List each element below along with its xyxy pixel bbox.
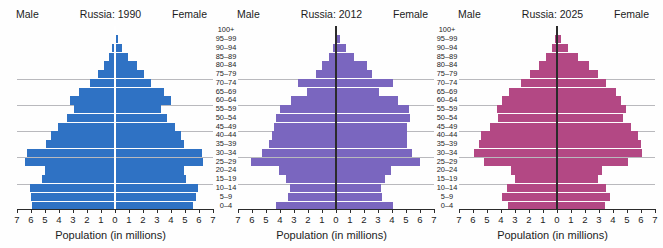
x-tick-label: 6 bbox=[249, 214, 254, 225]
x-axis-tick bbox=[171, 209, 172, 213]
bar-male-35–39 bbox=[479, 140, 557, 148]
pyramid-panel-1990: Male Russia: 1990 Female 765432101234567… bbox=[0, 0, 221, 248]
x-tick-label: 0 bbox=[112, 214, 117, 225]
x-axis-tick bbox=[392, 209, 393, 213]
age-group-labels-left: 100+95–9990–9485–8980–8475–7970–7465–696… bbox=[209, 26, 243, 210]
bar-female-30–34 bbox=[115, 149, 202, 157]
x-axis-tick bbox=[308, 209, 309, 213]
bar-male-20–24 bbox=[511, 166, 557, 174]
bar-male-30–34 bbox=[27, 149, 115, 157]
bar-female-80–84 bbox=[557, 61, 589, 69]
bar-male-25–29 bbox=[251, 158, 336, 166]
x-tick-label: 3 bbox=[291, 214, 296, 225]
age-group-label: 95–99 bbox=[209, 35, 243, 43]
x-axis-tick bbox=[613, 209, 614, 213]
x-tick-label: 1 bbox=[319, 214, 324, 225]
bar-male-15–19 bbox=[42, 175, 115, 183]
x-tick-label: 2 bbox=[305, 214, 310, 225]
x-axis-tick bbox=[31, 209, 32, 213]
bar-female-60–64 bbox=[115, 96, 171, 104]
x-axis-title: Population (in millions) bbox=[442, 228, 663, 242]
x-tick-label: 5 bbox=[263, 214, 268, 225]
x-axis-tick bbox=[350, 209, 351, 213]
bar-female-60–64 bbox=[336, 96, 398, 104]
bar-male-50–54 bbox=[67, 114, 115, 122]
bar-female-75–79 bbox=[115, 70, 144, 78]
x-axis-tick bbox=[322, 209, 323, 213]
x-axis-tick bbox=[501, 209, 502, 213]
age-group-label: 70–74 bbox=[209, 79, 243, 87]
x-axis-tick bbox=[17, 209, 18, 213]
bar-female-45–49 bbox=[557, 123, 631, 131]
age-group-label: 5–9 bbox=[430, 193, 464, 201]
bar-male-60–64 bbox=[502, 96, 557, 104]
x-tick-label: 0 bbox=[554, 214, 559, 225]
x-tick-label: 7 bbox=[431, 214, 436, 225]
zero-axis-line bbox=[556, 26, 558, 210]
bar-male-55–59 bbox=[280, 105, 336, 113]
bar-female-65–69 bbox=[557, 88, 616, 96]
bar-female-5–9 bbox=[336, 193, 382, 201]
x-tick-label: 2 bbox=[582, 214, 587, 225]
x-axis-title: Population (in millions) bbox=[0, 228, 221, 242]
x-axis-tick bbox=[129, 209, 130, 213]
bar-female-30–34 bbox=[336, 149, 412, 157]
bar-female-40–44 bbox=[336, 131, 407, 139]
age-group-label: 70–74 bbox=[430, 79, 464, 87]
x-tick-label: 4 bbox=[610, 214, 615, 225]
bar-female-10–14 bbox=[115, 184, 198, 192]
bar-female-45–49 bbox=[336, 123, 407, 131]
bar-female-40–44 bbox=[115, 131, 181, 139]
x-tick-label: 1 bbox=[126, 214, 131, 225]
female-label: Female bbox=[172, 7, 207, 21]
female-label: Female bbox=[393, 7, 428, 21]
bar-male-50–54 bbox=[276, 114, 336, 122]
bar-female-60–64 bbox=[557, 96, 621, 104]
bar-female-15–19 bbox=[557, 175, 598, 183]
age-group-label: 50–54 bbox=[209, 114, 243, 122]
bar-male-80–84 bbox=[322, 61, 336, 69]
x-axis-title: Population (in millions) bbox=[221, 228, 442, 242]
bar-male-15–19 bbox=[286, 175, 336, 183]
x-tick-label: 7 bbox=[652, 214, 657, 225]
x-axis-tick bbox=[406, 209, 407, 213]
x-tick-label: 1 bbox=[98, 214, 103, 225]
bar-male-40–44 bbox=[272, 131, 336, 139]
x-tick-label: 7 bbox=[235, 214, 240, 225]
bar-male-60–64 bbox=[70, 96, 115, 104]
bar-female-20–24 bbox=[336, 166, 391, 174]
bar-female-80–84 bbox=[115, 61, 137, 69]
x-tick-label: 3 bbox=[154, 214, 159, 225]
bar-male-65–69 bbox=[79, 88, 115, 96]
x-axis-tick bbox=[571, 209, 572, 213]
bar-female-5–9 bbox=[115, 193, 196, 201]
bar-male-25–29 bbox=[25, 158, 115, 166]
x-axis-tick bbox=[378, 209, 379, 213]
x-axis-tick-labels: 765432101234567 bbox=[221, 214, 442, 226]
bar-male-60–64 bbox=[291, 96, 336, 104]
age-group-labels-right: 100+95–9990–9485–8980–8475–7970–7465–696… bbox=[430, 26, 464, 210]
x-axis-tick bbox=[543, 209, 544, 213]
bar-male-75–79 bbox=[316, 70, 336, 78]
bar-female-35–39 bbox=[336, 140, 407, 148]
x-tick-label: 4 bbox=[168, 214, 173, 225]
bar-female-85–89 bbox=[115, 53, 128, 61]
x-axis-tick bbox=[487, 209, 488, 213]
bar-female-25–29 bbox=[557, 158, 628, 166]
age-group-label: 10–14 bbox=[430, 184, 464, 192]
bar-female-25–29 bbox=[115, 158, 203, 166]
age-group-label: 30–34 bbox=[430, 149, 464, 157]
female-label: Female bbox=[614, 7, 649, 21]
bar-female-70–74 bbox=[557, 79, 606, 87]
x-axis-tick bbox=[473, 209, 474, 213]
x-axis-tick bbox=[143, 209, 144, 213]
bar-female-35–39 bbox=[557, 140, 641, 148]
x-tick-label: 6 bbox=[417, 214, 422, 225]
bar-male-30–34 bbox=[474, 149, 557, 157]
bar-female-85–89 bbox=[557, 53, 578, 61]
x-tick-label: 1 bbox=[347, 214, 352, 225]
x-axis-tick bbox=[157, 209, 158, 213]
bar-male-20–24 bbox=[45, 166, 115, 174]
bar-male-75–79 bbox=[98, 70, 115, 78]
x-tick-label: 5 bbox=[624, 214, 629, 225]
